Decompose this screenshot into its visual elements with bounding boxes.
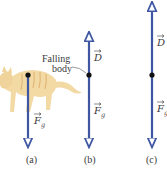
label-d-b: D [93, 50, 102, 64]
free-body-diagram: F g (a) D F g Falling body (b) D [0, 0, 167, 169]
caption-a: (a) [26, 154, 37, 166]
label-d-c: D [156, 35, 165, 49]
label-fg-c: F g [156, 101, 167, 118]
panel-b: D F g Falling body (b) [42, 36, 105, 166]
falling-body-annotation: Falling body [42, 53, 86, 74]
body-dot-c [149, 72, 154, 77]
panel-a: F g (a) [0, 66, 82, 166]
svg-text:g: g [101, 111, 105, 119]
caption-c: (c) [146, 154, 157, 166]
panel-c: D F g (c) [146, 6, 167, 166]
body-dot-b [86, 72, 91, 77]
svg-text:g: g [164, 109, 167, 117]
svg-text:D: D [93, 52, 102, 63]
svg-text:D: D [156, 37, 165, 48]
body-dot-a [25, 72, 30, 77]
label-fg-a: F g [33, 113, 45, 130]
svg-text:body: body [52, 63, 72, 74]
caption-b: (b) [84, 154, 96, 166]
label-fg-b: F g [93, 103, 105, 120]
svg-text:g: g [41, 121, 45, 129]
